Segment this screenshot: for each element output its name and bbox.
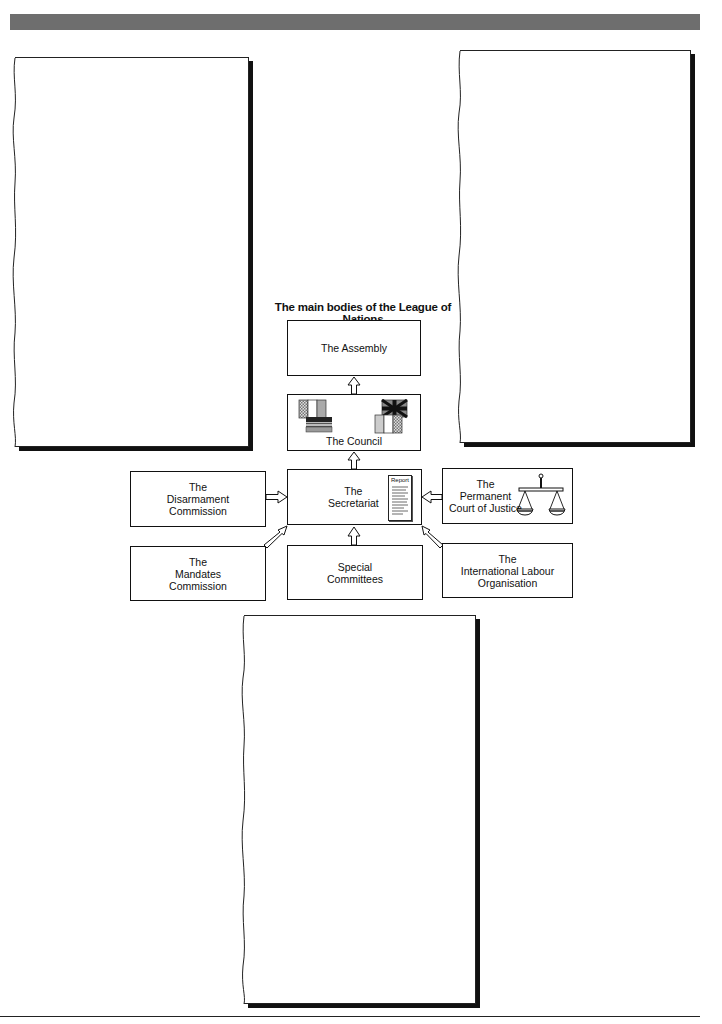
arrow-up-icon (348, 527, 360, 545)
arrow-diagonal-icon (422, 526, 443, 548)
arrow-right-icon (266, 491, 287, 503)
footer-rule (0, 1016, 700, 1017)
arrow-up-icon (348, 377, 360, 394)
arrow-diagonal-icon (264, 526, 287, 548)
connector-arrows (0, 0, 722, 1024)
arrow-left-icon (422, 491, 442, 503)
arrow-up-icon (348, 452, 360, 469)
